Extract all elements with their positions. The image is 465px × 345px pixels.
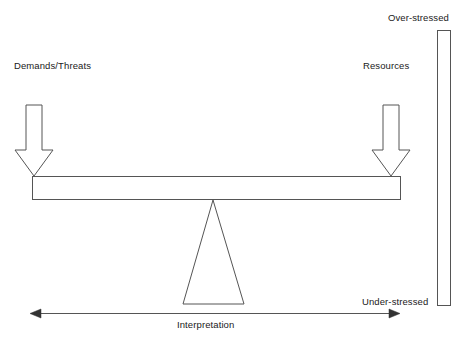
vertical-gauge-icon xyxy=(438,31,451,306)
triangle-icon xyxy=(183,200,244,304)
stress-balance-diagram: Demands/Threats Resources Over-stressed … xyxy=(0,0,465,345)
label-interpretation: Interpretation xyxy=(177,319,234,330)
arrow-down-icon-left xyxy=(15,105,53,176)
label-over-stressed: Over-stressed xyxy=(388,12,449,23)
label-demands-threats: Demands/Threats xyxy=(14,60,91,71)
label-resources: Resources xyxy=(363,60,409,71)
beam-icon xyxy=(33,177,401,200)
double-arrow-horizontal-icon xyxy=(30,309,400,318)
arrow-down-icon-right xyxy=(372,105,410,176)
label-under-stressed: Under-stressed xyxy=(362,296,428,307)
diagram-canvas xyxy=(0,0,465,345)
